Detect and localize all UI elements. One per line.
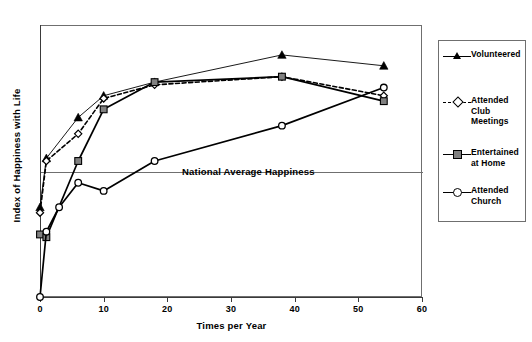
legend-marker-volunteered-icon: [443, 50, 471, 62]
legend-marker-entertained-at-home-icon: [443, 148, 471, 160]
x-tick-60: [422, 297, 423, 302]
x-tick-0: [40, 297, 41, 302]
national-average-label: National Average Happiness: [182, 166, 315, 177]
x-tick-label-60: 60: [407, 304, 437, 314]
legend-item-attended-church[interactable]: Attended Church: [443, 185, 525, 206]
legend-marker-attended-club-meetings-icon: [443, 96, 471, 108]
legend-symbol-filled-square-icon: [453, 150, 462, 159]
legend-item-entertained-at-home[interactable]: Entertained at Home: [443, 147, 525, 168]
y-axis-line: [40, 25, 41, 298]
x-tick-40: [295, 297, 296, 302]
x-tick-30: [231, 297, 232, 302]
legend-label-attended-club-meetings: Attended Club Meetings: [471, 95, 525, 127]
x-tick-label-40: 40: [280, 304, 310, 314]
plot-area: [40, 25, 422, 297]
x-tick-label-0: 0: [25, 304, 55, 314]
chart-legend: VolunteeredAttended Club MeetingsEnterta…: [438, 40, 526, 222]
legend-label-entertained-at-home: Entertained at Home: [471, 147, 525, 168]
x-tick-50: [358, 297, 359, 302]
x-tick-label-50: 50: [343, 304, 373, 314]
legend-symbol-open-diamond-icon: [452, 96, 463, 107]
x-axis-title: Times per Year: [40, 320, 423, 331]
legend-marker-attended-church-icon: [443, 186, 471, 198]
x-tick-label-10: 10: [89, 304, 119, 314]
legend-symbol-open-circle-icon: [453, 188, 462, 197]
x-tick-10: [104, 297, 105, 302]
legend-label-attended-church: Attended Church: [471, 185, 525, 206]
y-axis-title: Index of Happiness with Life: [11, 56, 22, 256]
x-tick-label-30: 30: [216, 304, 246, 314]
legend-label-volunteered: Volunteered: [471, 49, 521, 60]
x-tick-20: [167, 297, 168, 302]
legend-item-volunteered[interactable]: Volunteered: [443, 49, 525, 62]
legend-item-attended-club-meetings[interactable]: Attended Club Meetings: [443, 95, 525, 127]
chart-page: National Average Happiness 0102030405060…: [0, 0, 532, 342]
x-tick-label-20: 20: [152, 304, 182, 314]
legend-symbol-filled-triangle-icon: [453, 52, 461, 59]
